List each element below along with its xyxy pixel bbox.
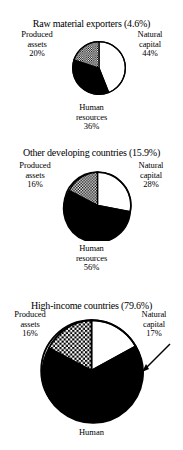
label-human-resources-value-2: 56% <box>0 263 183 273</box>
label-produced-assets-value-3: 16% <box>2 329 58 339</box>
label-natural-capital-value-1: 44% <box>123 49 177 59</box>
label-human-resources-1: Human resources 36% <box>0 103 183 132</box>
label-produced-assets-2: Produced assets 16% <box>6 161 64 190</box>
label-produced-assets-3: Produced assets 16% <box>2 310 58 339</box>
pie-raw-material-exporters <box>71 40 127 96</box>
chart-title-raw-material-exporters: Raw material exporters (4.6%) <box>0 18 183 29</box>
label-natural-capital-value-3: 17% <box>127 329 181 339</box>
label-produced-assets-value-1: 20% <box>8 49 66 59</box>
label-human-resources-2: Human resources 56% <box>0 244 183 273</box>
label-human-resources-value-1: 36% <box>0 122 183 132</box>
label-natural-capital-3: Natural capital 17% <box>127 310 181 339</box>
chart-panel-other-developing-countries: Other developing countries (15.9%) <box>0 140 183 285</box>
label-human-resources-3: Human <box>0 428 183 438</box>
label-natural-capital-value-2: 28% <box>124 180 178 190</box>
pie-svg-1 <box>71 40 127 96</box>
label-natural-capital-1: Natural capital 44% <box>123 30 177 59</box>
pie-svg-2 <box>62 170 133 241</box>
label-produced-assets-1: Produced assets 20% <box>8 30 66 59</box>
label-natural-capital-2: Natural capital 28% <box>124 161 178 190</box>
chart-title-other-developing-countries: Other developing countries (15.9%) <box>0 147 183 158</box>
pie-other-developing-countries <box>62 170 133 241</box>
pie-chart-figure: Raw material exporters (4.6%) <box>0 0 183 450</box>
label-produced-assets-value-2: 16% <box>6 180 64 190</box>
chart-panel-raw-material-exporters: Raw material exporters (4.6%) <box>0 0 183 140</box>
chart-panel-high-income-countries: High-income countries (79.6%) <box>0 285 183 450</box>
leader-line-natural-capital-3 <box>132 342 172 376</box>
